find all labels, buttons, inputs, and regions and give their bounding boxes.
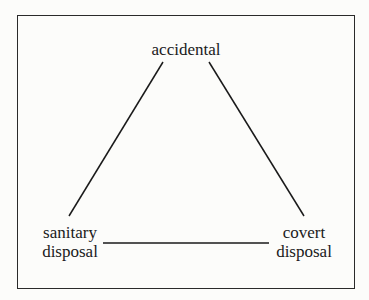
node-accidental: accidental: [140, 40, 232, 59]
node-covert-disposal: covert disposal: [270, 223, 338, 261]
edge-accidental-covert: [209, 62, 304, 216]
node-sanitary-disposal: sanitary disposal: [36, 223, 104, 261]
edge-accidental-sanitary: [69, 62, 163, 216]
